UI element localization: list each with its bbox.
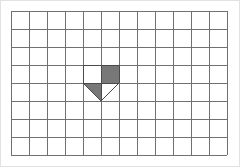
figure-canvas bbox=[0, 0, 240, 167]
grid-figure bbox=[0, 0, 240, 167]
shape-quadrant-top-right-square bbox=[101, 65, 119, 83]
